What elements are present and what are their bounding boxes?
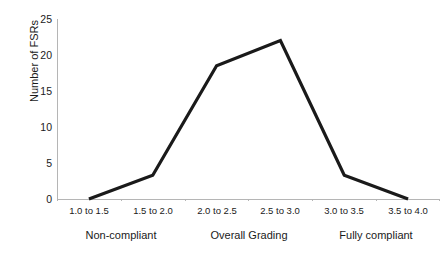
y-axis	[57, 19, 58, 200]
group-label-overall-grading: Overall Grading	[185, 228, 313, 242]
x-tick-label: 2.5 to 3.0	[248, 205, 312, 217]
x-tick-label: 1.0 to 1.5	[57, 205, 121, 217]
x-tick-label: 2.0 to 2.5	[185, 205, 249, 217]
data-series-line	[89, 41, 408, 199]
y-tick-label: 15	[30, 86, 52, 96]
x-axis-group-labels: Non-compliant Overall Grading Fully comp…	[57, 228, 440, 244]
x-tick-label: 3.5 to 4.0	[376, 205, 440, 217]
x-axis-tick-labels: 1.0 to 1.5 1.5 to 2.0 2.0 to 2.5 2.5 to …	[57, 205, 440, 219]
plot-area	[57, 19, 440, 199]
y-axis-tick-labels: 25 20 15 10 5 0	[22, 0, 52, 260]
x-tick-label: 3.0 to 3.5	[312, 205, 376, 217]
line-chart: Number of FSRs 25 20 15 10 5 0	[0, 0, 446, 260]
y-tick-label: 20	[30, 50, 52, 60]
y-tick-label: 25	[30, 14, 52, 24]
y-tick-label: 10	[30, 122, 52, 132]
x-tick-label: 1.5 to 2.0	[121, 205, 185, 217]
x-axis	[57, 200, 440, 202]
plot-svg	[57, 19, 440, 201]
y-tick-label: 5	[30, 158, 52, 168]
group-label-non-compliant: Non-compliant	[57, 228, 185, 242]
group-label-fully-compliant: Fully compliant	[312, 228, 440, 242]
y-tick-label: 0	[30, 194, 52, 204]
